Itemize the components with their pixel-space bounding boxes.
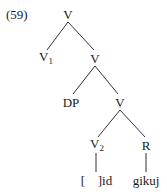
node-root-v: V bbox=[63, 8, 72, 22]
node-v1-label: V bbox=[39, 49, 48, 64]
edge-vlow-v2 bbox=[98, 110, 120, 137]
edge-root-v1 bbox=[47, 22, 68, 50]
leaf-v2-open-bracket: [ bbox=[81, 174, 85, 188]
edge-vlow-r bbox=[120, 110, 145, 137]
leaf-r: gikuj bbox=[133, 174, 160, 188]
leaf-v2-close-bracket: ]id bbox=[98, 174, 112, 188]
node-v-low: V bbox=[115, 96, 124, 110]
edge-v-vlow bbox=[95, 66, 118, 94]
node-v-mid: V bbox=[90, 52, 99, 66]
edge-root-v bbox=[68, 22, 94, 50]
node-v2-subscript: 2 bbox=[99, 143, 104, 153]
node-dp: DP bbox=[63, 96, 80, 110]
node-v1: V1 bbox=[39, 50, 53, 68]
node-r: R bbox=[142, 139, 151, 153]
tree-edges bbox=[0, 0, 167, 194]
node-v2-label: V bbox=[90, 136, 99, 151]
node-v1-subscript: 1 bbox=[48, 56, 53, 66]
edge-v-dp bbox=[73, 66, 95, 94]
node-v2: V2 bbox=[90, 137, 104, 155]
